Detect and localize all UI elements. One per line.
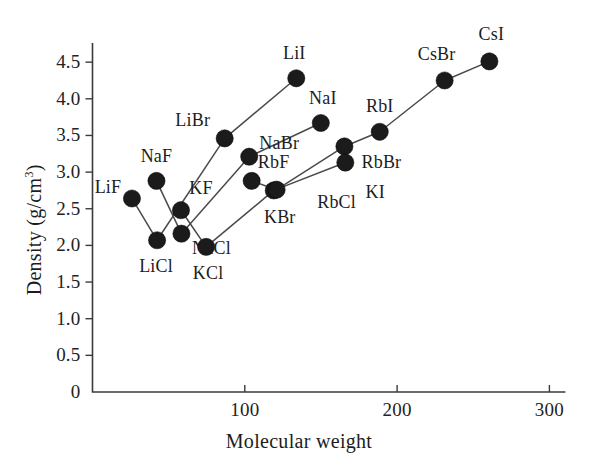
- point-label-naf: NaF: [141, 145, 173, 166]
- data-point-kf: [172, 202, 189, 219]
- y-axis-title: Density (g/cm3): [22, 110, 46, 350]
- y-tick-label-2: 1.0: [56, 308, 80, 330]
- point-label-lii: LiI: [283, 43, 306, 64]
- point-label-nabr: NaBr: [259, 132, 299, 153]
- x-axis-title: Molecular weight: [0, 430, 598, 453]
- point-label-rbcl: RbCl: [317, 191, 356, 212]
- data-point-libr: [216, 130, 233, 147]
- data-point-nabr: [241, 148, 258, 165]
- data-point-rbcl: [268, 181, 285, 198]
- point-label-csi: CsI: [479, 24, 505, 45]
- point-label-licl: LiCl: [139, 256, 173, 277]
- y-axis-title-exponent: 3: [22, 171, 36, 177]
- y-tick-label-1: 0.5: [56, 344, 80, 366]
- point-label-kcl: KCl: [193, 262, 224, 283]
- point-label-lif: LiF: [95, 177, 122, 198]
- data-points: [123, 53, 498, 256]
- data-point-lif: [123, 190, 140, 207]
- y-tick-label-3: 1.5: [56, 271, 80, 293]
- density-vs-molecular-weight-chart: 00.51.01.52.02.53.03.54.04.5100200300 Li…: [0, 0, 598, 476]
- point-label-libr: LiBr: [175, 110, 210, 131]
- data-point-rbi: [371, 123, 388, 140]
- data-point-lii: [288, 70, 305, 87]
- point-label-ki: KI: [366, 181, 385, 202]
- data-point-ki: [337, 154, 354, 171]
- data-point-csi: [481, 53, 498, 70]
- point-label-nai: NaI: [309, 87, 337, 108]
- data-point-nai: [312, 114, 329, 131]
- y-tick-label-5: 2.5: [56, 198, 80, 220]
- point-label-kf: KF: [189, 178, 212, 199]
- point-label-csbr: CsBr: [418, 44, 456, 65]
- y-tick-label-7: 3.5: [56, 124, 80, 146]
- data-point-rbbr: [336, 138, 353, 155]
- x-tick-label-1: 200: [383, 399, 412, 421]
- y-axis-title-main: Density (g/cm: [23, 178, 45, 296]
- data-point-nacl: [173, 225, 190, 242]
- y-tick-label-0: 0: [71, 381, 81, 403]
- point-label-rbf: RbF: [258, 151, 290, 172]
- point-label-rbbr: RbBr: [361, 152, 401, 173]
- x-tick-label-2: 300: [535, 399, 564, 421]
- y-tick-label-4: 2.0: [56, 234, 80, 256]
- point-label-kbr: KBr: [264, 207, 296, 228]
- y-tick-label-9: 4.5: [56, 51, 80, 73]
- plot-area: [0, 0, 598, 476]
- point-label-rbi: RbI: [366, 95, 394, 116]
- data-point-rbf: [243, 172, 260, 189]
- data-point-licl: [148, 232, 165, 249]
- data-point-csbr: [436, 72, 453, 89]
- data-point-naf: [148, 172, 165, 189]
- y-axis-title-tail: ): [23, 164, 45, 171]
- y-tick-label-8: 4.0: [56, 88, 80, 110]
- point-label-nacl: NaCl: [192, 237, 231, 258]
- y-tick-label-6: 3.0: [56, 161, 80, 183]
- x-tick-label-0: 100: [230, 399, 259, 421]
